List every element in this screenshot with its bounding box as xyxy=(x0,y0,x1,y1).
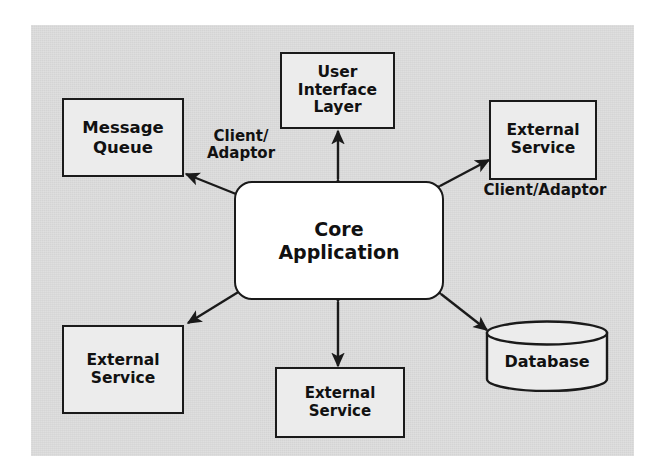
node-user-interface-layer[interactable]: User Interface Layer xyxy=(280,52,395,129)
architecture-diagram: Message Queue User Interface Layer Exter… xyxy=(0,0,656,472)
node-external-service-right-label: External Service xyxy=(505,122,582,158)
node-database[interactable]: Database xyxy=(485,320,609,392)
node-user-interface-layer-label: User Interface Layer xyxy=(296,64,379,118)
node-message-queue-label: Message Queue xyxy=(80,118,165,156)
edge-label-client-adaptor-right: Client/Adaptor xyxy=(470,182,620,199)
edge-core-to-database xyxy=(441,294,487,330)
node-database-label: Database xyxy=(485,320,609,392)
node-core-application[interactable]: Core Application xyxy=(234,181,444,300)
node-external-service-left[interactable]: External Service xyxy=(62,325,184,414)
node-external-service-left-label: External Service xyxy=(85,352,162,388)
node-core-application-label: Core Application xyxy=(276,218,401,262)
node-external-service-bottom[interactable]: External Service xyxy=(275,367,405,438)
node-external-service-bottom-label: External Service xyxy=(303,385,378,420)
node-external-service-right[interactable]: External Service xyxy=(489,100,597,180)
edge-label-client-adaptor-left: Client/ Adaptor xyxy=(198,128,284,162)
edge-core-to-external-service-left xyxy=(188,291,240,323)
edge-core-to-message-queue xyxy=(186,174,241,196)
node-message-queue[interactable]: Message Queue xyxy=(62,98,184,177)
